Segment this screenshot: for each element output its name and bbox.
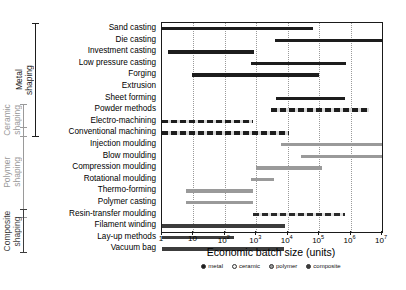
range-bar <box>162 120 253 123</box>
range-bar <box>271 108 369 111</box>
range-bar <box>276 97 345 100</box>
legend-marker-icon <box>269 264 274 269</box>
category-label: Resin-transfer moulding <box>55 208 159 220</box>
legend-marker-icon <box>232 264 237 269</box>
category-label: Low pressure casting <box>55 57 159 69</box>
bar-row <box>162 127 382 139</box>
range-bar <box>253 213 344 216</box>
category-label: Injection moulding <box>55 138 159 150</box>
category-label: Rotational moulding <box>55 173 159 185</box>
category-label: Conventional machining <box>55 126 159 138</box>
bracket-stem <box>23 209 24 253</box>
group-label: Polymer shaping <box>3 127 22 218</box>
legend-label: ceramic <box>239 263 260 269</box>
x-tick-label: 106 <box>335 234 365 245</box>
category-label: Polymer casting <box>55 196 159 208</box>
category-label: Sand casting <box>55 22 159 34</box>
bar-row <box>162 23 382 35</box>
category-label: Blow moulding <box>55 150 159 162</box>
plot-area <box>161 22 383 233</box>
x-tick-label: 104 <box>272 234 302 245</box>
legend-marker-icon <box>306 264 311 269</box>
bar-row <box>162 197 382 209</box>
x-tick-label: 1 <box>146 234 176 243</box>
range-bar <box>275 39 382 42</box>
range-bar <box>168 50 255 53</box>
bar-row <box>162 46 382 58</box>
x-tick-label: 10 <box>177 234 207 243</box>
category-label: Extrusion <box>55 80 159 92</box>
bar-row <box>162 69 382 81</box>
range-bar <box>281 143 382 146</box>
category-label: Electro-machining <box>55 115 159 127</box>
bar-row <box>162 116 382 128</box>
range-bar <box>162 224 285 227</box>
range-bar <box>192 73 319 76</box>
x-tick-label: 103 <box>240 234 270 245</box>
x-tick-label: 105 <box>303 234 333 245</box>
legend-label: metal <box>208 263 223 269</box>
bar-row <box>162 185 382 197</box>
range-bar <box>251 178 274 181</box>
range-bar <box>162 27 313 30</box>
x-axis-title: Economic batch size (units) <box>161 246 381 258</box>
category-label: Powder methods <box>55 103 159 115</box>
bar-row <box>162 139 382 151</box>
category-label: Investment casting <box>55 45 159 57</box>
legend-marker-icon <box>201 264 206 269</box>
range-bar <box>301 155 382 158</box>
category-label: Die casting <box>55 34 159 46</box>
category-label: Forging <box>55 68 159 80</box>
category-label: Lay-up methods <box>55 231 159 243</box>
category-label: Compression moulding <box>55 161 159 173</box>
bracket-stem <box>23 127 24 218</box>
bar-row <box>162 162 382 174</box>
range-bar <box>162 131 289 134</box>
legend: metalceramicpolymercomposite <box>161 263 381 269</box>
bar-row <box>162 104 382 116</box>
legend-label: polymer <box>276 263 297 269</box>
bracket-stem <box>35 23 36 137</box>
range-bar <box>186 201 253 204</box>
x-tick-label: 102 <box>209 234 239 245</box>
category-label: Vacuum bag <box>55 242 159 254</box>
category-axis-labels: Sand castingDie castingInvestment castin… <box>55 22 159 254</box>
bar-row <box>162 58 382 70</box>
category-label: Thermo-forming <box>55 184 159 196</box>
legend-item: ceramic <box>232 263 260 269</box>
legend-item: composite <box>306 263 340 269</box>
category-label: Sheet forming <box>55 92 159 104</box>
bar-row <box>162 174 382 186</box>
bar-row <box>162 151 382 163</box>
range-bar <box>251 62 346 65</box>
x-tick-label: 107 <box>366 234 396 245</box>
bar-row <box>162 35 382 47</box>
legend-item: polymer <box>269 263 297 269</box>
category-label: Filament winding <box>55 219 159 231</box>
range-bar <box>186 189 253 192</box>
bar-row <box>162 81 382 93</box>
group-label: Composite shaping <box>3 209 22 253</box>
chart-figure: Metal shapingCeramic shapingPolymer shap… <box>0 0 406 290</box>
range-bar <box>256 166 322 169</box>
bar-row <box>162 209 382 221</box>
bar-row <box>162 93 382 105</box>
legend-label: composite <box>313 263 340 269</box>
legend-item: metal <box>201 263 223 269</box>
